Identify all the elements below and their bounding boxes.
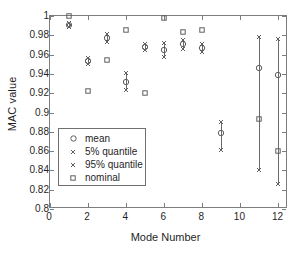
error-bar — [278, 39, 279, 184]
x-axis-tick — [88, 16, 89, 20]
square-open-icon — [65, 175, 81, 181]
x-axis-label-text: Mode Number — [131, 231, 201, 243]
x-axis-tick — [240, 203, 241, 207]
data-point-nominal — [142, 90, 148, 96]
y-axis-tick-label: 0.92 — [5, 87, 49, 98]
legend: mean5% quantile95% quantilenominal — [58, 128, 146, 186]
y-axis-tick — [50, 132, 54, 133]
y-axis-tick — [50, 170, 54, 171]
y-axis-tick — [282, 35, 286, 36]
y-axis-tick — [282, 170, 286, 171]
y-axis-tick — [282, 132, 286, 133]
y-axis-tick — [50, 209, 54, 210]
y-axis-tick — [282, 93, 286, 94]
x-axis-tick — [278, 203, 279, 207]
data-point-nominal — [199, 27, 205, 33]
legend-item-label: nominal — [81, 172, 120, 183]
x-axis-tick — [164, 203, 165, 207]
x-axis-tick — [126, 16, 127, 20]
data-point-mean — [123, 78, 130, 85]
x-axis-tick-label: 6 — [148, 211, 178, 222]
y-axis-tick — [50, 74, 54, 75]
data-point-nominal — [180, 29, 186, 35]
data-point-nominal — [85, 88, 91, 94]
data-point-95-quantile — [275, 36, 281, 42]
y-axis-tick-label: 0.98 — [5, 29, 49, 40]
y-axis-tick — [282, 113, 286, 114]
y-axis-label: MAC value — [6, 77, 18, 132]
y-axis-tick — [50, 35, 54, 36]
data-point-5-quantile — [275, 181, 281, 187]
data-point-95-quantile — [180, 37, 186, 43]
x-cross-icon — [65, 162, 81, 168]
data-point-nominal — [275, 148, 281, 154]
y-axis-tick — [282, 151, 286, 152]
x-axis-tick — [88, 203, 89, 207]
y-axis-tick — [282, 55, 286, 56]
x-axis-tick-label: 10 — [224, 211, 254, 222]
error-bar — [259, 37, 260, 170]
y-axis-tick-label: 0.86 — [5, 145, 49, 156]
x-axis-tick — [50, 16, 51, 20]
x-axis-tick-label: 4 — [110, 211, 140, 222]
y-axis-tick-label: 1 — [5, 10, 49, 21]
legend-item-label: 5% quantile — [81, 146, 137, 157]
legend-item-label: mean — [81, 133, 110, 144]
y-axis-tick — [282, 16, 286, 17]
data-point-mean — [161, 46, 168, 53]
data-point-5-quantile — [256, 167, 262, 173]
y-axis-tick — [50, 190, 54, 191]
data-point-5-quantile — [123, 87, 129, 93]
y-axis-tick — [50, 151, 54, 152]
legend-item-label: 95% quantile — [81, 159, 143, 170]
x-axis-tick-label: 12 — [262, 211, 292, 222]
x-axis-label: Mode Number — [0, 231, 303, 243]
y-axis-tick — [50, 113, 54, 114]
data-point-nominal — [66, 13, 72, 19]
y-axis-tick-label: 0.82 — [5, 183, 49, 194]
x-axis-tick-label: 8 — [186, 211, 216, 222]
data-point-nominal — [161, 15, 167, 21]
data-point-nominal — [123, 27, 129, 33]
data-point-mean — [256, 65, 263, 72]
y-axis-tick — [282, 74, 286, 75]
data-point-5-quantile — [104, 39, 110, 45]
x-axis-tick — [126, 203, 127, 207]
data-point-5-quantile — [85, 61, 91, 67]
legend-item-5-quantile[interactable]: 5% quantile — [59, 145, 145, 158]
data-point-95-quantile — [66, 20, 72, 26]
x-axis-tick — [202, 16, 203, 20]
data-point-5-quantile — [161, 54, 167, 60]
legend-item-mean[interactable]: mean — [59, 132, 145, 145]
y-axis-tick-label: 0.96 — [5, 48, 49, 59]
data-point-95-quantile — [256, 34, 262, 40]
mac-value-scatter-figure: MAC value Mode Number 0.80.820.840.860.8… — [0, 0, 303, 253]
y-axis-tick-label: 0.88 — [5, 125, 49, 136]
data-point-95-quantile — [218, 119, 224, 125]
data-point-5-quantile — [142, 47, 148, 53]
legend-item-95-quantile[interactable]: 95% quantile — [59, 158, 145, 171]
data-point-5-quantile — [180, 46, 186, 52]
x-axis-tick-label: 2 — [72, 211, 102, 222]
x-axis-tick-label: 0 — [34, 211, 64, 222]
data-point-95-quantile — [123, 70, 129, 76]
y-axis-tick — [282, 209, 286, 210]
data-point-95-quantile — [142, 41, 148, 47]
data-point-mean — [218, 129, 225, 136]
y-axis-tick — [50, 93, 54, 94]
data-point-mean — [275, 71, 282, 78]
circle-open-icon — [65, 135, 81, 142]
data-point-95-quantile — [85, 55, 91, 61]
y-axis-tick-label: 0.84 — [5, 164, 49, 175]
data-point-5-quantile — [218, 147, 224, 153]
x-axis-tick — [240, 16, 241, 20]
y-axis-tick — [282, 190, 286, 191]
y-axis-tick-label: 0.94 — [5, 67, 49, 78]
x-cross-icon — [65, 149, 81, 155]
legend-item-nominal[interactable]: nominal — [59, 171, 145, 184]
data-point-nominal — [104, 57, 110, 63]
y-axis-tick — [50, 55, 54, 56]
x-axis-tick — [278, 16, 279, 20]
x-axis-tick — [50, 203, 51, 207]
data-point-nominal — [256, 116, 262, 122]
